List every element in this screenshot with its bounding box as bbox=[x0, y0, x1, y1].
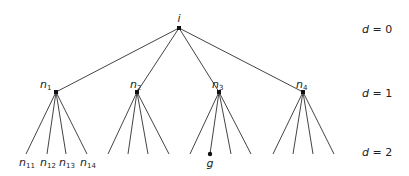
label-n3: n3 bbox=[212, 78, 223, 92]
leaf-label-n11: n11 bbox=[19, 156, 35, 170]
label-n2: n2 bbox=[130, 78, 141, 92]
edge-root-n4 bbox=[179, 28, 303, 92]
tree-canvas: n11n12n13n14gin1n2n3n4 d = 0d = 1d = 2 bbox=[0, 0, 409, 176]
search-tree-diagram: n11n12n13n14gin1n2n3n4 d = 0d = 1d = 2 bbox=[0, 0, 409, 176]
depth-labels: d = 0d = 1d = 2 bbox=[362, 23, 392, 159]
edge-root-n2 bbox=[137, 28, 179, 92]
edge-root-n1 bbox=[56, 28, 179, 92]
label-n1: n1 bbox=[40, 78, 51, 92]
tree-edges bbox=[26, 28, 334, 154]
edge-n2-leaf-4 bbox=[137, 92, 169, 154]
goal-node-label: g bbox=[207, 157, 214, 170]
edge-n3-leaf-3 bbox=[219, 92, 231, 154]
depth-label-2: d = 2 bbox=[362, 146, 392, 159]
root-node bbox=[177, 26, 181, 30]
root-label: i bbox=[177, 12, 180, 25]
depth-label-1: d = 1 bbox=[362, 87, 392, 100]
depth-label-0: d = 0 bbox=[362, 23, 392, 36]
node-n1 bbox=[54, 90, 58, 94]
label-n4: n4 bbox=[296, 78, 308, 92]
goal-node-dot bbox=[208, 152, 212, 156]
edge-n3-leaf-4 bbox=[219, 92, 251, 154]
leaf-label-n12: n12 bbox=[40, 156, 56, 170]
leaf-label-n13: n13 bbox=[59, 156, 75, 170]
edge-n2-leaf-3 bbox=[137, 92, 148, 154]
tree-nodes bbox=[54, 26, 305, 156]
leaf-label-n14: n14 bbox=[80, 156, 96, 170]
